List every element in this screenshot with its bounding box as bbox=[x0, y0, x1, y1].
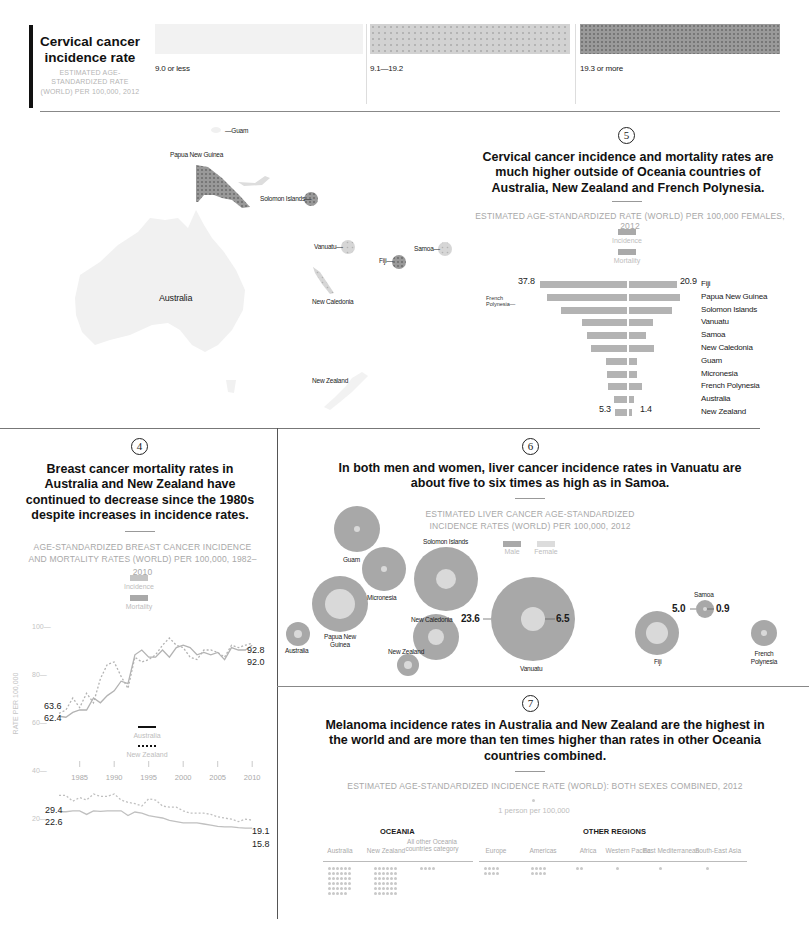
legend-accent-bar bbox=[29, 25, 33, 108]
country-label: Australia bbox=[701, 394, 730, 403]
legend-divider bbox=[575, 24, 576, 104]
section-7-number: 7 bbox=[522, 695, 539, 712]
value-annotation: 19.1 bbox=[252, 826, 270, 836]
incidence-bar bbox=[608, 383, 627, 390]
mortality-bar bbox=[629, 307, 672, 314]
incidence-bar bbox=[591, 345, 627, 352]
mortality-bar bbox=[629, 409, 632, 416]
section-5-subtitle: ESTIMATED AGE-STANDARDIZED RATE (WORLD) … bbox=[470, 211, 790, 231]
section-6-number: 6 bbox=[522, 438, 539, 455]
section-4-rule bbox=[125, 531, 155, 532]
value-annotation: 92.0 bbox=[247, 657, 265, 667]
region-column-label: South-East Asia bbox=[688, 847, 748, 854]
incidence-bar bbox=[614, 396, 627, 403]
section-5-number: 5 bbox=[618, 127, 635, 144]
region-column-label: All other Oceania countries category bbox=[402, 838, 462, 853]
section-7-headline: Melanoma incidence rates in Australia an… bbox=[315, 718, 775, 764]
oceania-rule bbox=[323, 861, 473, 862]
mortality-bar bbox=[629, 383, 642, 390]
line-new-zealand-mortality bbox=[59, 794, 252, 822]
country-label: New Caledonia bbox=[701, 343, 753, 352]
section-5-headline: Cervical cancer incidence and mortality … bbox=[478, 150, 778, 196]
value-annotation: 29.4 bbox=[45, 805, 63, 815]
bubble-label-french-polynesia: French Polynesia bbox=[746, 650, 782, 666]
legend-incidence-swatch bbox=[130, 575, 148, 581]
bubble-label-vanuatu: Vanuatu bbox=[520, 665, 542, 672]
line-australia-incidence bbox=[59, 645, 252, 717]
mortality-bar bbox=[629, 345, 654, 352]
legend-mortality-label: Mortality bbox=[109, 603, 169, 610]
legend-bin-high-label: 19.3 or more bbox=[580, 64, 623, 73]
bubble-label-samoa: Samoa bbox=[694, 591, 714, 598]
region-dot-grid bbox=[484, 866, 502, 876]
country-label: French Polynesia bbox=[701, 381, 760, 390]
incidence-bar bbox=[540, 281, 627, 288]
region-dot-grid bbox=[531, 866, 549, 876]
liver-bubble-chart bbox=[277, 490, 809, 686]
value-annotation: 22.6 bbox=[45, 817, 63, 827]
legend-subtitle: ESTIMATED AGE-STANDARDIZED RATE (WORLD) … bbox=[36, 68, 144, 96]
incidence-bar bbox=[615, 409, 627, 416]
bubble-label-fiji: Fiji bbox=[654, 658, 662, 665]
bubble-label-new-caledonia: New Caledonia bbox=[411, 616, 452, 623]
bubble-label-new-zealand: New Zealand bbox=[388, 648, 424, 655]
cervical-label-top-left: 37.8 bbox=[518, 276, 535, 286]
unit-label: 1 person per 100,000 bbox=[474, 806, 594, 815]
value-annotation: 92.8 bbox=[247, 645, 265, 655]
samoa-marker bbox=[438, 242, 452, 256]
country-label: Guam bbox=[701, 356, 722, 365]
section-divider-horizontal-2 bbox=[277, 686, 809, 687]
country-label: Micronesia bbox=[701, 369, 738, 378]
legend-bin-low-label: 9.0 or less bbox=[155, 64, 190, 73]
cervical-bar-chart: FijiPapua New GuineaSolomon IslandsVanua… bbox=[470, 276, 809, 416]
line-legend-nz: New Zealand bbox=[117, 751, 177, 758]
section-6-headline: In both men and women, liver cancer inci… bbox=[330, 461, 750, 492]
breast-ylabel: RATE PER 100,000 bbox=[12, 664, 19, 744]
group-oceania: OCEANIA bbox=[380, 827, 415, 836]
legend-incidence-label: Incidence bbox=[109, 583, 169, 590]
legend-bin-mid bbox=[370, 24, 570, 54]
value-annotation: 15.8 bbox=[252, 839, 270, 849]
map-label-australia: Australia bbox=[159, 293, 192, 303]
section-4-subtitle: AGE-STANDARDIZED BREAST CANCER INCIDENCE… bbox=[25, 541, 260, 578]
legend-incidence-swatch bbox=[618, 229, 636, 235]
x-tick: 1990 bbox=[106, 773, 123, 782]
incidence-bar bbox=[607, 371, 627, 378]
mortality-bar bbox=[629, 319, 653, 326]
vanuatu-male-value: 23.6 bbox=[461, 613, 480, 624]
incidence-bar bbox=[582, 319, 627, 326]
line-legend-australia-swatch bbox=[138, 726, 156, 728]
vanuatu-marker bbox=[341, 240, 355, 254]
samoa-female-value: 0.9 bbox=[716, 603, 729, 614]
legend-mortality-label: Mortality bbox=[597, 257, 657, 264]
bubble-label-png: Papua New Guinea bbox=[318, 633, 362, 649]
legend-incidence-label: Incidence bbox=[597, 237, 657, 244]
cervical-label-top-right: 20.9 bbox=[680, 276, 697, 286]
oceania-map bbox=[0, 112, 470, 427]
australia-shape bbox=[75, 210, 245, 352]
region-dot-grid bbox=[706, 866, 724, 871]
country-label: Solomon Islands bbox=[701, 305, 757, 314]
region-dot-grid bbox=[328, 866, 354, 896]
legend-bin-mid-label: 9.1—19.2 bbox=[370, 64, 403, 73]
value-annotation: 62.4 bbox=[44, 713, 62, 723]
mortality-bar bbox=[629, 281, 677, 288]
map-label-fiji: Fiji— bbox=[379, 257, 393, 264]
map-label-png: Papua New Guinea bbox=[170, 151, 223, 158]
y-tick: 40— bbox=[32, 767, 47, 774]
samoa-male-value: 5.0 bbox=[672, 603, 685, 614]
region-dot-grid bbox=[576, 866, 594, 871]
x-tick: 1995 bbox=[140, 773, 157, 782]
legend-divider bbox=[366, 24, 367, 104]
line-australia-mortality bbox=[59, 811, 252, 828]
incidence-bar bbox=[561, 307, 627, 314]
section-7-rule bbox=[515, 771, 545, 772]
mortality-bar bbox=[629, 332, 646, 339]
mortality-bar bbox=[629, 396, 634, 403]
legend-bin-low bbox=[155, 24, 363, 54]
new-caledonia-shape bbox=[313, 267, 334, 294]
y-tick: 100— bbox=[32, 623, 51, 630]
mortality-bar bbox=[629, 358, 637, 365]
bubble-label-solomon: Solomon Islands bbox=[423, 538, 468, 545]
value-annotation: 63.6 bbox=[44, 701, 62, 711]
